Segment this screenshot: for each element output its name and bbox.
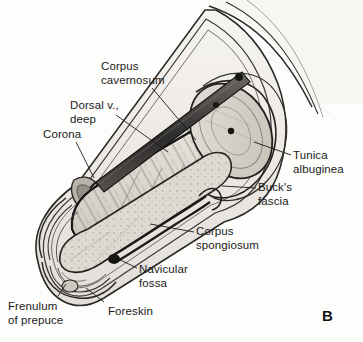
urethral-lumen-dot bbox=[228, 128, 234, 134]
label-corpus-cavernosum: Corpus cavernosum bbox=[101, 60, 165, 87]
label-navicular-fossa: Navicular fossa bbox=[139, 263, 188, 290]
label-tunica-albuginea: Tunica albuginea bbox=[293, 149, 344, 176]
vein-branch-node bbox=[213, 102, 219, 108]
figure-panel-b: Corpus cavernosum Dorsal v., deep Corona… bbox=[0, 0, 363, 342]
panel-letter-b: B bbox=[322, 307, 333, 324]
label-corona: Corona bbox=[43, 128, 81, 142]
label-bucks-fascia: Buck's fascia bbox=[258, 181, 292, 208]
label-corpus-spongiosum: Corpus spongiosum bbox=[196, 225, 259, 252]
vein-terminal-node bbox=[235, 73, 243, 81]
label-foreskin: Foreskin bbox=[108, 305, 153, 319]
label-frenulum-of-prepuce: Frenulum of prepuce bbox=[8, 300, 63, 327]
label-dorsal-vein-deep: Dorsal v., deep bbox=[70, 99, 119, 126]
